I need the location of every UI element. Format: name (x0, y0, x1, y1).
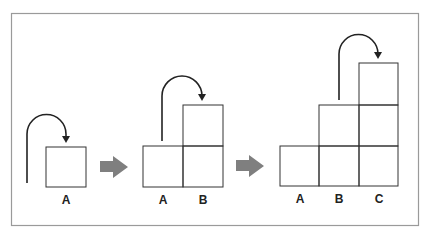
column-label-b: B (199, 193, 208, 207)
column-label-a: A (296, 192, 305, 206)
column-label-a: A (62, 193, 71, 207)
stacking-diagram: A A B A B C (0, 0, 428, 235)
column-label-b: B (335, 192, 344, 206)
diagram-frame (12, 14, 419, 226)
column-label-a: A (159, 193, 168, 207)
column-label-c: C (375, 192, 384, 206)
